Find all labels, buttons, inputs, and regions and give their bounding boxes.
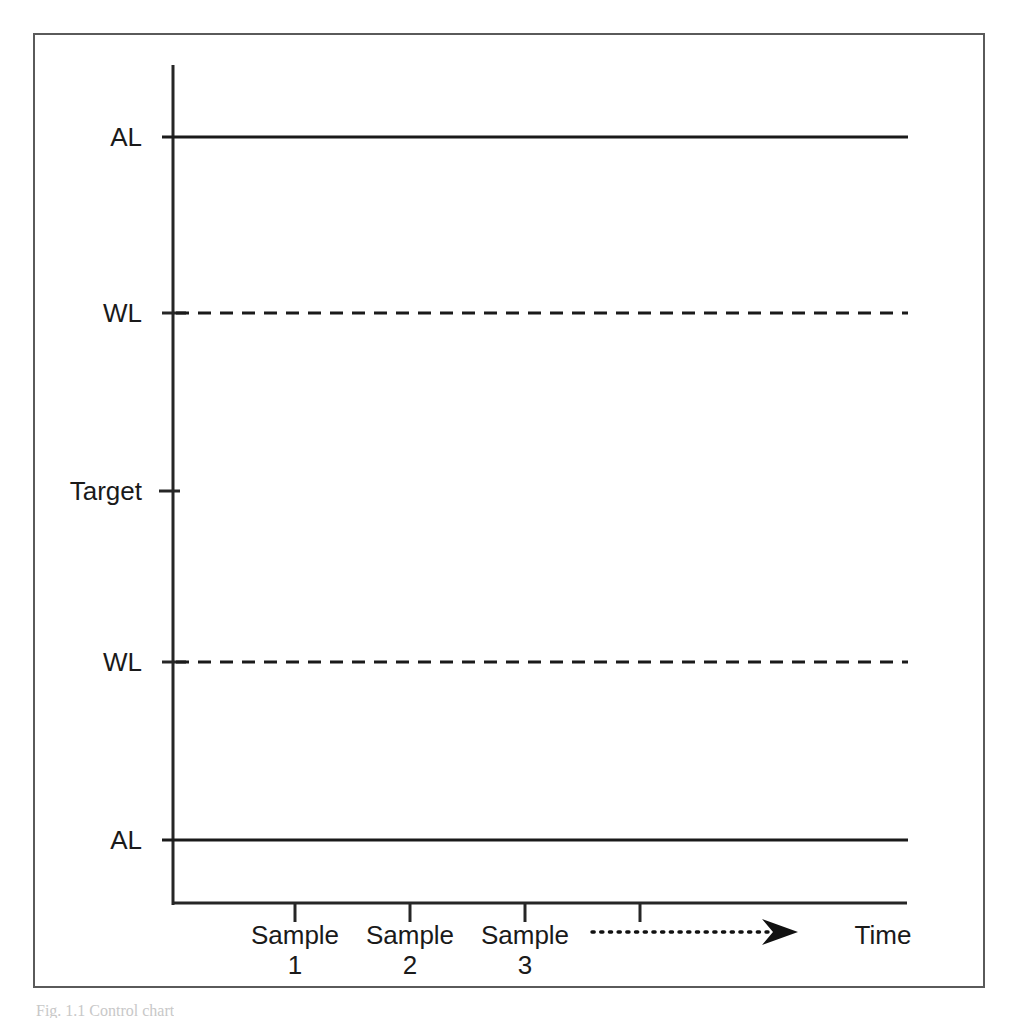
x-axis-label-sample-3: Sample 3 xyxy=(481,920,569,980)
x-axis-label-sample-2-line2: 2 xyxy=(366,950,454,980)
figure-caption: Fig. 1.1 Control chart xyxy=(36,1002,174,1018)
y-axis-label-target: Target xyxy=(30,478,142,504)
x-axis-label-sample-1-line1: Sample xyxy=(251,920,339,950)
x-axis-label-sample-2: Sample 2 xyxy=(366,920,454,980)
x-axis-label-sample-1-line2: 1 xyxy=(251,950,339,980)
x-axis-label-sample-1: Sample 1 xyxy=(251,920,339,980)
x-axis-label-sample-2-line1: Sample xyxy=(366,920,454,950)
y-axis-label-lower-wl: WL xyxy=(60,649,142,675)
figure-frame-border xyxy=(33,33,985,988)
x-axis-label-sample-3-line2: 3 xyxy=(481,950,569,980)
x-axis-title: Time xyxy=(855,920,912,950)
control-chart-figure: AL WL Target WL AL Sample 1 Sample 2 Sam… xyxy=(0,0,1020,1020)
y-axis-label-upper-al: AL xyxy=(60,124,142,150)
x-axis-label-sample-3-line1: Sample xyxy=(481,920,569,950)
y-axis-label-lower-al: AL xyxy=(60,827,142,853)
y-axis-label-upper-wl: WL xyxy=(60,300,142,326)
